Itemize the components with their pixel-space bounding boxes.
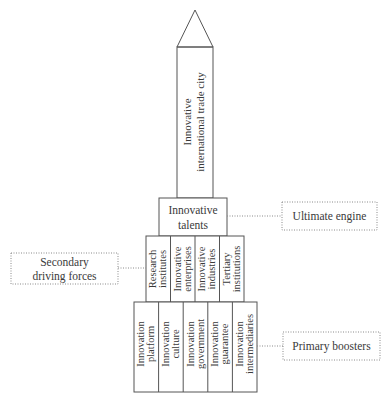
svg-text:enterprises: enterprises (182, 246, 193, 291)
primary-item-innovation-intermediaries: Innovation intermediaries (234, 314, 255, 374)
svg-text:platform: platform (145, 326, 156, 362)
spire-label: Innovative international trade city (181, 72, 206, 172)
ultimate-engine-label: Ultimate engine (293, 210, 367, 223)
secondary-label-line2: driving forces (32, 270, 97, 283)
secondary-item-research-institutes: Research institutes (147, 249, 168, 288)
primary-item-innovation-platform: Innovation platform (135, 321, 156, 367)
talents-label-line1: Innovative (168, 204, 217, 216)
secondary-item-innovative-enterprises: Innovative enterprises (172, 246, 193, 292)
talents-label-line2: talents (178, 219, 209, 231)
svg-text:intermediaries: intermediaries (244, 314, 255, 374)
svg-text:institutes: institutes (157, 250, 168, 288)
secondary-item-innovative-industries: Innovative industries (196, 246, 217, 291)
primary-boosters-label: Primary boosters (292, 340, 371, 353)
svg-text:guarantee: guarantee (219, 323, 230, 364)
svg-text:culture: culture (170, 329, 181, 358)
secondary-label-line1: Secondary (40, 256, 89, 269)
spire-tip (177, 10, 213, 47)
svg-text:institutions: institutions (231, 246, 242, 293)
svg-text:international trade city: international trade city (194, 72, 206, 172)
primary-item-innovation-government: Innovation government (185, 319, 206, 369)
innovation-tower-diagram: Innovative international trade city Inno… (0, 0, 390, 404)
svg-text:government: government (195, 319, 206, 369)
svg-text:industries: industries (206, 249, 217, 290)
svg-text:Innovative: Innovative (181, 98, 193, 145)
primary-item-innovation-guarantee: Innovation guarantee (209, 321, 230, 367)
secondary-item-tertiary-institutions: Tertiary institutions (221, 246, 242, 293)
